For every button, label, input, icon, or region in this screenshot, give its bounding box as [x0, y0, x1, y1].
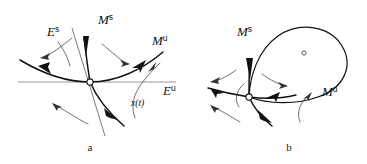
unstable-manifold-arrowhead-right-b [266, 92, 280, 102]
panel-b: Ms Mu b [208, 24, 347, 153]
stable-manifold-label-b: Ms [236, 24, 252, 39]
panel-letter-b: b [286, 141, 292, 153]
center-point-b [302, 51, 306, 55]
stable-eigenspace-leader-a [58, 42, 70, 66]
panel-a: Es Ms Mu Eu x(t) a [18, 12, 176, 153]
flow-hint-upper-right-curve-a [102, 44, 128, 64]
unstable-manifold-label-b: Mu [321, 84, 338, 99]
trajectory-arrowhead-a [148, 62, 156, 72]
stable-manifold-arrowhead-top-a [83, 36, 89, 56]
saddle-point-a [87, 79, 93, 85]
flow-hint-upper-left-arrow-a [40, 53, 50, 60]
stable-manifold-label-a: Ms [97, 12, 113, 27]
trajectory-curve-tail-a [146, 63, 160, 78]
unstable-eigenspace-label-a: Eu [162, 83, 176, 98]
panel-letter-a: a [88, 141, 93, 153]
saddle-point-b [246, 94, 252, 100]
phase-portrait-svg: Es Ms Mu Eu x(t) a [0, 0, 367, 164]
flow-hint-upper-left-arrow-b [210, 77, 220, 84]
flow-hint-lower-left-arrow-a [52, 103, 62, 111]
flow-hint-upper-right-arrow-a [120, 60, 130, 67]
unstable-manifold-arrowhead-left-b [210, 88, 224, 98]
trajectory-label-a: x(t) [130, 98, 144, 109]
figure-container: Es Ms Mu Eu x(t) a [0, 0, 367, 164]
stable-eigenspace-label-a: Es [46, 24, 59, 39]
flow-hint-lower-left-arrow-b [210, 105, 220, 113]
stable-manifold-arrowhead-bottom-b [258, 110, 272, 123]
unstable-manifold-label-a: Mu [151, 33, 168, 48]
flow-hint-upper-right-arrow-b [278, 82, 288, 89]
